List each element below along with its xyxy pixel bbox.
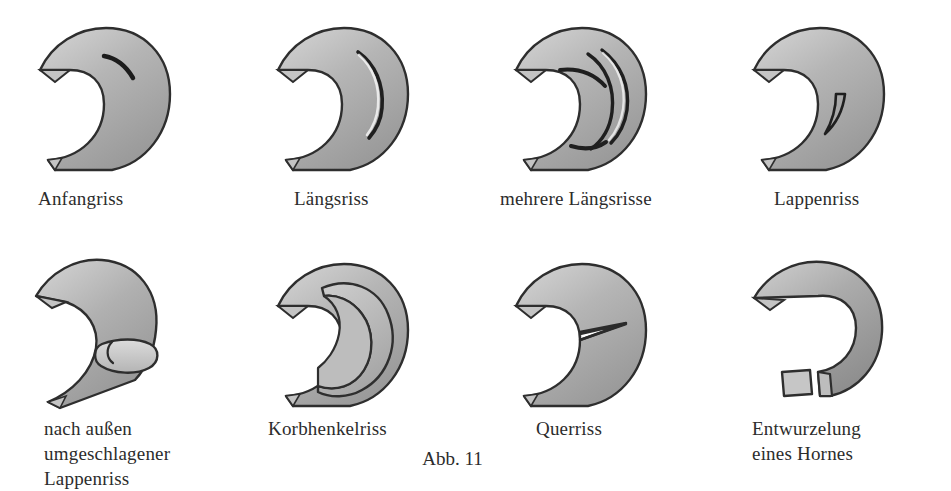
panel-querriss: Querriss (476, 244, 714, 474)
meniscus-illustration-horn-root-avulsion (714, 244, 951, 419)
panel-laengsriss: Längsriss (238, 8, 476, 238)
meniscus-illustration-transverse-tear (476, 244, 714, 419)
figure-number: Abb. 11 (0, 448, 951, 470)
panel-mehrere-laengsrisse: mehrere Längsrisse (476, 8, 714, 238)
panel-korbhenkelriss: Korbhenkelriss (238, 244, 476, 474)
meniscus-illustration-outward-folded-flap-tear (0, 244, 238, 419)
panel-entwurzelung: Entwurzelung eines Hornes (714, 244, 951, 474)
panel-caption-anfangriss: Anfangriss (0, 186, 276, 211)
meniscus-illustration-multiple-longitudinal-tears (476, 8, 714, 183)
figure-sheet: Anfangriss Längsriss (0, 0, 951, 491)
meniscus-illustration-bucket-handle-tear (238, 244, 476, 419)
figure-number-label: Abb. 11 (422, 448, 483, 469)
meniscus-illustration-flap-tear (714, 8, 951, 183)
meniscus-illustration-longitudinal-tear (238, 8, 476, 183)
panel-caption-mehrere-laengsrisse: mehrere Längsrisse (476, 186, 738, 211)
panel-anfangriss: Anfangriss (0, 8, 238, 238)
panel-caption-korbhenkelriss: Korbhenkelriss (238, 416, 506, 441)
panel-umgeschlagener-lappenriss: nach außen umgeschlagener Lappenriss (0, 244, 238, 474)
panel-lappenriss: Lappenriss (714, 8, 951, 238)
panel-caption-lappenriss: Lappenriss (714, 186, 951, 211)
meniscus-illustration-incipient-tear (0, 8, 238, 183)
